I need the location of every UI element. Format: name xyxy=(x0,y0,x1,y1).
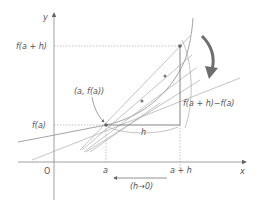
rotation-arrow-icon xyxy=(202,36,213,70)
difference-label: f(a + h)−f(a) xyxy=(183,99,234,108)
x-tick-a: a xyxy=(103,166,108,175)
derivative-diagram: y x O f(a + h) f(a) a a + h (a, f(a)) h … xyxy=(0,0,261,203)
point-label: (a, f(a)) xyxy=(74,87,104,96)
point-a-h xyxy=(178,44,182,48)
rotation-arrowhead-icon xyxy=(205,66,218,79)
y-tick-fah: f(a + h) xyxy=(16,42,47,51)
h-label: h xyxy=(141,128,146,137)
point-pointer-arrow-icon xyxy=(92,97,104,122)
x-axis-label: x xyxy=(239,167,245,176)
y-tick-fa: f(a) xyxy=(32,121,46,130)
vertical-bracket-curve xyxy=(182,40,191,128)
point-a-fa xyxy=(104,123,108,127)
point-mid-2 xyxy=(141,100,144,103)
secant-lines xyxy=(32,36,240,160)
point-mid-1 xyxy=(164,75,167,78)
origin-label: O xyxy=(44,167,50,176)
x-tick-ah: a + h xyxy=(170,166,192,175)
limit-label: (h→0) xyxy=(130,182,153,191)
y-axis-label: y xyxy=(42,13,48,22)
